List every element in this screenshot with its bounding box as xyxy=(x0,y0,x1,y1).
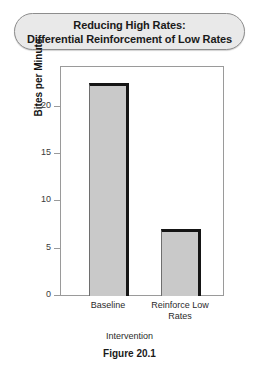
chart-title-line-1: Reducing High Rates: xyxy=(73,18,185,32)
chart-title-line-2: Differential Reinforcement of Low Rates xyxy=(27,32,232,46)
plot-area xyxy=(60,66,224,296)
y-axis-tick-label: 5 xyxy=(46,242,51,253)
y-axis-title: Bites per Minute xyxy=(33,8,44,148)
chart-title-banner: Reducing High Rates: Differential Reinfo… xyxy=(14,13,245,50)
x-axis-tick-label: Reinforce LowRates xyxy=(130,300,230,322)
x-axis-tick-label-line: Rates xyxy=(130,311,230,322)
y-axis-tick-label: 15 xyxy=(41,147,51,158)
x-axis-title: Intervention xyxy=(0,331,259,341)
bar xyxy=(161,229,201,296)
bar xyxy=(89,83,129,296)
x-axis-tick-label-line: Reinforce Low xyxy=(130,300,230,311)
figure-container: Reducing High Rates: Differential Reinfo… xyxy=(0,0,259,370)
figure-caption: Figure 20.1 xyxy=(0,348,259,359)
y-axis-tick-label: 10 xyxy=(41,194,51,205)
y-axis-tick-label: 0 xyxy=(46,289,51,300)
y-axis-tick-label: 20 xyxy=(41,100,51,111)
